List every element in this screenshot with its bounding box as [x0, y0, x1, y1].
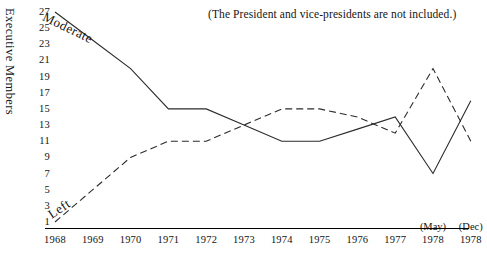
- series-line-moderate: [55, 12, 471, 174]
- series-line-left: [55, 69, 471, 222]
